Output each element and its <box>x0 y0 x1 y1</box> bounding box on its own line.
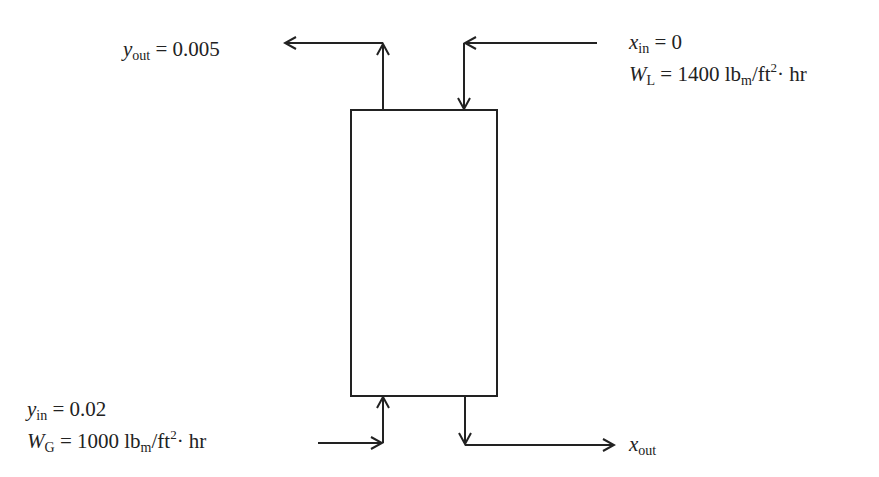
column-box <box>351 110 497 396</box>
liquid-flow-label: WL = 1400 lbm/ft2· hr <box>629 56 807 93</box>
gas-out-label: yout = 0.005 <box>123 37 220 68</box>
gas-flow-label: WG = 1000 lbm/ft2· hr <box>27 423 206 460</box>
liquid-out-label: xout <box>629 432 656 463</box>
